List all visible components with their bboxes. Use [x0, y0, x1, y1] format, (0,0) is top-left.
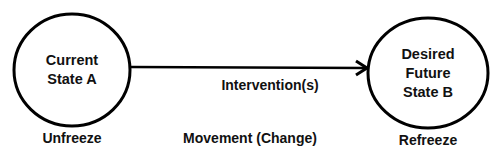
edge-label-interventions: Intervention(s) [180, 77, 360, 94]
phase-label-unfreeze: Unfreeze [22, 130, 122, 147]
node-a-line-2: State A [47, 70, 96, 89]
node-desired-future-state-b-label: Desired Future State B [368, 44, 488, 102]
phase-label-movement: Movement (Change) [160, 130, 340, 147]
node-a-line-1: Current [46, 51, 98, 70]
node-b-line-2: Future [405, 64, 450, 83]
node-b-line-1: Desired [401, 45, 454, 64]
node-b-line-3: State B [403, 83, 453, 102]
intervention-arrow-line [130, 67, 366, 68]
node-current-state-a-label: Current State A [14, 50, 130, 90]
phase-label-refreeze: Refreeze [378, 132, 478, 149]
